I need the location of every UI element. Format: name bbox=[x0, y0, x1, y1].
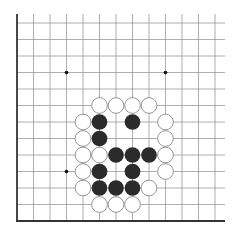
black-stone bbox=[125, 180, 141, 196]
white-stone bbox=[158, 114, 174, 130]
black-stone bbox=[108, 147, 124, 163]
white-stone bbox=[158, 131, 174, 147]
black-stone bbox=[108, 180, 124, 196]
go-board bbox=[0, 0, 236, 236]
black-stone bbox=[92, 180, 108, 196]
white-stone bbox=[75, 164, 91, 180]
white-stone bbox=[92, 197, 108, 213]
black-stone bbox=[92, 164, 108, 180]
white-stone bbox=[108, 98, 124, 114]
white-stone bbox=[125, 98, 141, 114]
star-point bbox=[164, 71, 168, 75]
white-stone bbox=[75, 180, 91, 196]
black-stone bbox=[125, 114, 141, 130]
white-stone bbox=[75, 131, 91, 147]
star-point bbox=[65, 71, 69, 75]
black-stone bbox=[125, 147, 141, 163]
white-stone bbox=[75, 114, 91, 130]
white-stone bbox=[92, 147, 108, 163]
black-stone bbox=[92, 114, 108, 130]
white-stone bbox=[141, 98, 157, 114]
white-stone bbox=[108, 197, 124, 213]
white-stone bbox=[158, 147, 174, 163]
white-stone bbox=[75, 147, 91, 163]
black-stone bbox=[125, 164, 141, 180]
black-stone bbox=[141, 147, 157, 163]
star-point bbox=[65, 170, 69, 174]
white-stone bbox=[125, 197, 141, 213]
white-stone bbox=[92, 98, 108, 114]
white-stone bbox=[141, 180, 157, 196]
black-stone bbox=[92, 131, 108, 147]
white-stone bbox=[158, 164, 174, 180]
